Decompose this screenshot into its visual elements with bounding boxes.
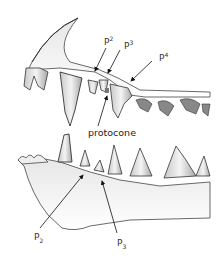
label-upper-p4: P4 [159,52,168,63]
label-lower-p3: P3 [117,239,126,250]
lower-jaw [18,134,210,230]
upper-jaw [24,18,210,126]
label-lower-p2: P2 [34,233,43,244]
arrow-protocone [98,96,107,126]
arrow-upper-p3 [108,50,120,73]
arrow-upper-p2 [95,48,106,71]
label-protocone: protocone [88,128,136,138]
arrow-upper-p4 [131,61,152,81]
label-upper-p2: P2 [104,36,113,47]
label-upper-p3: P3 [124,40,133,51]
